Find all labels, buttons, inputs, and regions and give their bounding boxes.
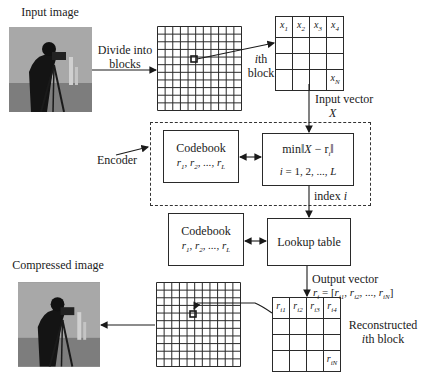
encoder-pointer — [116, 147, 148, 155]
placed-block-marker — [190, 311, 196, 317]
connectors — [0, 0, 423, 380]
selected-block-marker — [191, 56, 197, 62]
arrow-ith-block — [197, 43, 274, 59]
arrow-place-block — [194, 303, 272, 313]
